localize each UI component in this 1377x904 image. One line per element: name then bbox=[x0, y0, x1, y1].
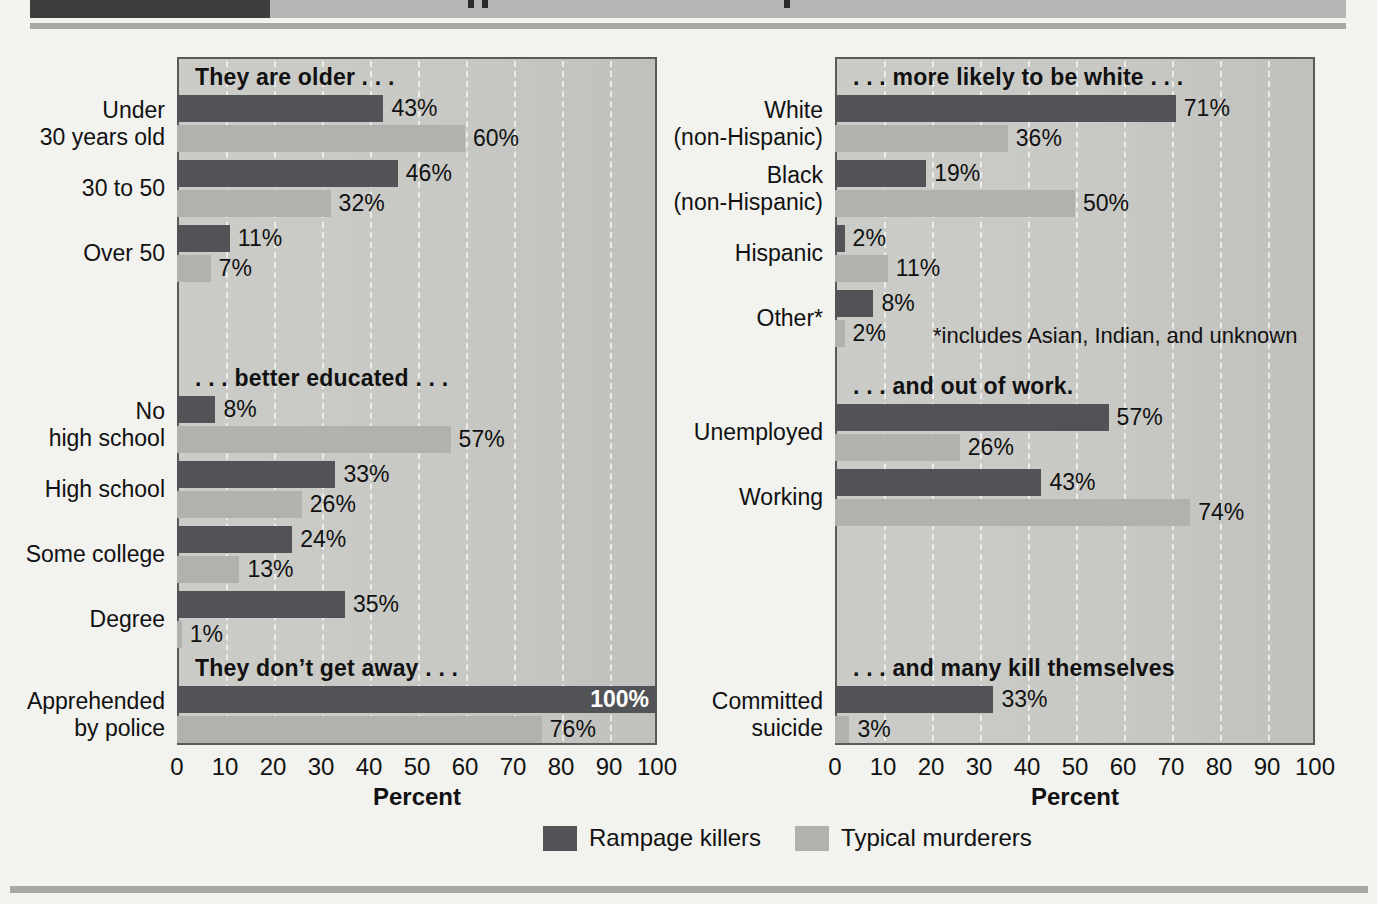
bar-group: 30 to 5046%32% bbox=[42, 160, 659, 217]
bar-group: Apprehendedby police100%76% bbox=[42, 686, 659, 743]
x-tick-40: 40 bbox=[356, 753, 383, 781]
category-label: Other* bbox=[700, 290, 835, 347]
category-label-line: Over 50 bbox=[83, 240, 165, 267]
x-tick-50: 50 bbox=[404, 753, 431, 781]
x-tick-20: 20 bbox=[260, 753, 287, 781]
bar-group: Degree35%1% bbox=[42, 591, 659, 648]
legend-swatch-typical-icon bbox=[795, 826, 829, 851]
clipped-title-remnant bbox=[784, 0, 790, 8]
chart-left-body: They are older . . .Under30 years old43%… bbox=[42, 57, 659, 745]
value-label: 74% bbox=[1198, 499, 1244, 526]
bar-rampage bbox=[835, 95, 1176, 122]
value-label: 43% bbox=[1049, 469, 1095, 496]
x-tick-60: 60 bbox=[452, 753, 479, 781]
bar-row-rampage: 71% bbox=[835, 95, 1315, 122]
value-label: 33% bbox=[1001, 686, 1047, 713]
bar-row-rampage: 57% bbox=[835, 404, 1315, 431]
value-label: 11% bbox=[896, 255, 940, 282]
value-label: 3% bbox=[857, 716, 890, 743]
bar-pair: 33%26% bbox=[177, 461, 657, 518]
bar-typical bbox=[835, 434, 960, 461]
chart-left-x-axis-title: Percent bbox=[177, 783, 657, 811]
category-label-line: Some college bbox=[26, 541, 165, 568]
category-label: Black(non-Hispanic) bbox=[700, 160, 835, 217]
x-tick-20: 20 bbox=[918, 753, 945, 781]
plot-content: They are older . . .Under30 years old43%… bbox=[42, 57, 659, 743]
bar-pair: 11%7% bbox=[177, 225, 657, 282]
bar-pair: 19%50% bbox=[835, 160, 1315, 217]
category-label: 30 to 50 bbox=[42, 160, 177, 217]
bar-typical bbox=[177, 426, 451, 453]
bar-rampage bbox=[177, 591, 345, 618]
bar-rampage bbox=[835, 290, 873, 317]
bar-typical bbox=[835, 125, 1008, 152]
bar-rampage bbox=[177, 461, 335, 488]
bar-pair: 71%36% bbox=[835, 95, 1315, 152]
bar-row-typical: 50% bbox=[835, 190, 1315, 217]
bar-row-typical: 32% bbox=[177, 190, 657, 217]
value-label: 2% bbox=[853, 225, 886, 252]
bar-group: Hispanic2%11% bbox=[700, 225, 1317, 282]
x-tick-0: 0 bbox=[828, 753, 841, 781]
bar-row-typical: 13% bbox=[177, 556, 657, 583]
x-tick-80: 80 bbox=[1206, 753, 1233, 781]
bar-group: Unemployed57%26% bbox=[700, 404, 1317, 461]
bar-rampage bbox=[835, 160, 926, 187]
value-label: 46% bbox=[406, 160, 452, 187]
bar-row-typical: 74% bbox=[835, 499, 1315, 526]
x-tick-100: 100 bbox=[637, 753, 677, 781]
value-label: 2% bbox=[853, 320, 886, 347]
bar-group: Working43%74% bbox=[700, 469, 1317, 526]
bottom-rule bbox=[10, 886, 1368, 893]
category-label-line: (non-Hispanic) bbox=[673, 124, 823, 151]
x-tick-70: 70 bbox=[1158, 753, 1185, 781]
bar-pair: 43%74% bbox=[835, 469, 1315, 526]
bar-group: Black(non-Hispanic)19%50% bbox=[700, 160, 1317, 217]
bar-typical bbox=[177, 621, 182, 648]
legend-label-typical: Typical murderers bbox=[841, 824, 1032, 852]
x-tick-10: 10 bbox=[870, 753, 897, 781]
category-label-line: Apprehended bbox=[27, 688, 165, 715]
bar-row-rampage: 100% bbox=[177, 686, 657, 713]
bar-pair: 57%26% bbox=[835, 404, 1315, 461]
bar-typical bbox=[177, 491, 302, 518]
bar-row-rampage: 43% bbox=[835, 469, 1315, 496]
x-tick-10: 10 bbox=[212, 753, 239, 781]
chart-right-x-axis-title: Percent bbox=[835, 783, 1315, 811]
bar-row-typical: 76% bbox=[177, 716, 657, 743]
value-label: 26% bbox=[968, 434, 1014, 461]
footnote: *includes Asian, Indian, and unknown bbox=[933, 323, 1297, 349]
bar-row-typical: 11% bbox=[835, 255, 1315, 282]
category-label-line: Other* bbox=[757, 305, 823, 332]
x-tick-90: 90 bbox=[1254, 753, 1281, 781]
bar-typical bbox=[835, 320, 845, 347]
value-label: 50% bbox=[1083, 190, 1129, 217]
category-label-line: suicide bbox=[751, 715, 823, 742]
category-label: Some college bbox=[42, 526, 177, 583]
bar-typical bbox=[177, 716, 542, 743]
chart-left: They are older . . .Under30 years old43%… bbox=[42, 57, 659, 811]
bar-row-rampage: 24% bbox=[177, 526, 657, 553]
x-tick-70: 70 bbox=[500, 753, 527, 781]
bar-rampage bbox=[835, 469, 1041, 496]
value-label: 8% bbox=[881, 290, 914, 317]
bar-pair: 24%13% bbox=[177, 526, 657, 583]
value-label: 60% bbox=[473, 125, 519, 152]
clipped-title-remnant bbox=[468, 0, 474, 8]
bar-group: Nohigh school8%57% bbox=[42, 396, 659, 453]
bar-row-rampage: 46% bbox=[177, 160, 657, 187]
section-heading: . . . and many kill themselves bbox=[853, 654, 1317, 682]
plot-content: . . . more likely to be white . . .White… bbox=[700, 57, 1317, 743]
bar-typical bbox=[835, 499, 1190, 526]
category-label: Over 50 bbox=[42, 225, 177, 282]
legend: Rampage killers Typical murderers bbox=[543, 824, 1032, 852]
category-label-line: Unemployed bbox=[694, 419, 823, 446]
bar-row-rampage: 8% bbox=[835, 290, 1315, 317]
category-label: Apprehendedby police bbox=[42, 686, 177, 743]
bar-rampage bbox=[177, 225, 230, 252]
bar-rampage bbox=[835, 404, 1109, 431]
value-label: 33% bbox=[343, 461, 389, 488]
category-label-line: (non-Hispanic) bbox=[673, 189, 823, 216]
x-tick-30: 30 bbox=[966, 753, 993, 781]
category-label-line: Black bbox=[767, 162, 823, 189]
